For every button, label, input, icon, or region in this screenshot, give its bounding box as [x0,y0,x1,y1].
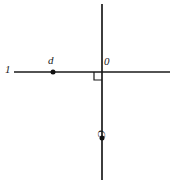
point-label-c: C [96,130,107,137]
point-label-d: d [48,55,54,66]
origin-label: 0 [104,56,110,67]
point-d-dot [51,70,56,75]
line-label-l: 1 [5,64,11,75]
right-angle-marker [94,72,102,80]
geometry-figure: 1 d 0 C [0,0,179,185]
geometry-canvas [0,0,179,185]
